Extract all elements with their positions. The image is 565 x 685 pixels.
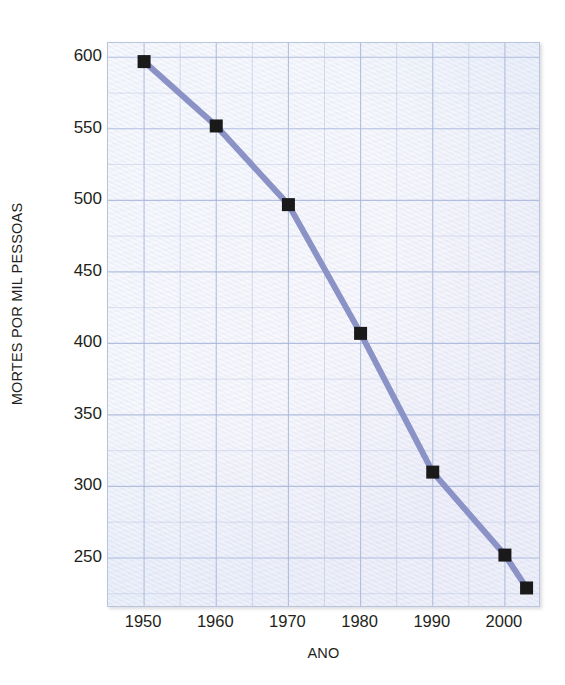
y-axis-tick-label: 300 [40, 475, 102, 495]
series-line [144, 62, 526, 588]
y-axis-title-label: MORTES POR MIL PESSOAS [9, 202, 25, 405]
data-point-marker [354, 327, 367, 340]
data-point-marker [138, 55, 151, 68]
data-point-marker [210, 119, 223, 132]
y-axis-tick-label: 550 [40, 118, 102, 138]
y-axis-tick-label: 450 [40, 261, 102, 281]
data-point-marker [426, 466, 439, 479]
y-axis-tick-label: 350 [40, 404, 102, 424]
x-axis-tick-label: 1990 [413, 612, 450, 631]
line-chart: MORTES POR MIL PESSOAS 25030035040045050… [0, 0, 565, 685]
y-axis-tick-labels: 250300350400450500550600 [36, 0, 102, 685]
data-series [108, 43, 540, 607]
y-axis-tick-label: 600 [40, 46, 102, 66]
x-axis-tick-label: 2000 [486, 612, 523, 631]
data-point-marker [520, 581, 533, 594]
y-axis-tick-label: 250 [40, 547, 102, 567]
data-point-marker [282, 198, 295, 211]
x-axis-title: ANO [107, 645, 540, 661]
plot-area [107, 42, 540, 607]
y-axis-tick-label: 500 [40, 189, 102, 209]
data-point-marker [498, 549, 511, 562]
x-axis-tick-label: 1970 [269, 612, 306, 631]
x-axis-tick-label: 1960 [197, 612, 234, 631]
y-axis-tick-label: 400 [40, 332, 102, 352]
y-axis-title: MORTES POR MIL PESSOAS [0, 0, 34, 607]
x-axis-tick-label: 1980 [341, 612, 378, 631]
x-axis-tick-label: 1950 [125, 612, 162, 631]
